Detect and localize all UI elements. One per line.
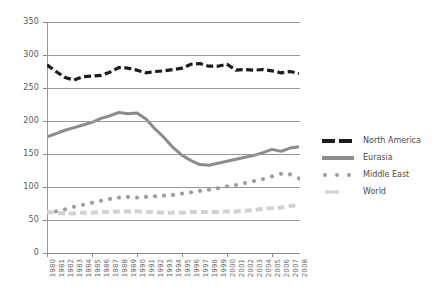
x-tick-label-2006: 2006 (284, 259, 291, 277)
y-tick-label: 50 (0, 216, 39, 224)
x-tick-label-1989: 1989 (131, 259, 138, 277)
x-tick-label-1997: 1997 (203, 259, 210, 277)
x-tick-label-1988: 1988 (122, 259, 129, 277)
gridline-300 (47, 55, 300, 56)
series-north-america (47, 64, 299, 81)
x-tick-label-2001: 2001 (239, 259, 246, 277)
legend-swatch-icon (322, 187, 354, 197)
y-tick-label: 150 (0, 150, 39, 158)
y-tick-label: 0 (0, 249, 39, 257)
legend-label: North America (363, 136, 421, 145)
line-chart: 050100150200250300350 198019811982198319… (0, 0, 435, 304)
x-tick-label-1994: 1994 (176, 259, 183, 277)
gridline-350 (47, 22, 300, 23)
legend-swatch-icon (322, 136, 354, 146)
x-tick-label-1986: 1986 (104, 259, 111, 277)
x-tick-label-1993: 1993 (167, 259, 174, 277)
gridline-0 (47, 253, 300, 254)
x-tick-mark (47, 253, 48, 257)
x-tick-label-2003: 2003 (257, 259, 264, 277)
legend-label: World (363, 187, 386, 196)
gridline-50 (47, 220, 300, 221)
legend-item-eurasia[interactable]: Eurasia (322, 149, 432, 166)
legend-label: Eurasia (363, 153, 393, 162)
x-tick-label-1998: 1998 (212, 259, 219, 277)
x-tick-label-1987: 1987 (113, 259, 120, 277)
x-tick-label-1981: 1981 (59, 259, 66, 277)
x-tick-mark (227, 253, 228, 257)
series-layer (47, 22, 300, 253)
x-tick-mark (137, 253, 138, 257)
x-tick-label-1999: 1999 (221, 259, 228, 277)
x-tick-label-2004: 2004 (266, 259, 273, 277)
legend-item-north-america[interactable]: North America (322, 132, 432, 149)
x-tick-label-1992: 1992 (158, 259, 165, 277)
x-tick-mark (272, 253, 273, 257)
gridline-250 (47, 88, 300, 89)
x-tick-label-1983: 1983 (77, 259, 84, 277)
x-tick-label-1995: 1995 (185, 259, 192, 277)
x-tick-label-1984: 1984 (86, 259, 93, 277)
x-tick-label-2005: 2005 (275, 259, 282, 277)
x-tick-label-1980: 1980 (50, 259, 57, 277)
gridline-150 (47, 154, 300, 155)
x-tick-label-1990: 1990 (140, 259, 147, 277)
legend-label: Middle East (363, 170, 409, 179)
x-tick-mark (182, 253, 183, 257)
legend-swatch-icon (322, 170, 354, 180)
x-tick-label-1985: 1985 (95, 259, 102, 277)
gridline-100 (47, 187, 300, 188)
x-tick-mark (92, 253, 93, 257)
x-tick-label-2002: 2002 (248, 259, 255, 277)
x-tick-label-1996: 1996 (194, 259, 201, 277)
y-tick-label: 250 (0, 84, 39, 92)
y-tick-label: 100 (0, 183, 39, 191)
plot-area (47, 22, 300, 253)
x-tick-label-1991: 1991 (149, 259, 156, 277)
legend-swatch-icon (322, 153, 354, 163)
series-world (47, 205, 299, 214)
legend: North AmericaEurasiaMiddle EastWorld (322, 132, 432, 200)
legend-item-middle-east[interactable]: Middle East (322, 166, 432, 183)
y-tick-label: 350 (0, 18, 39, 26)
x-tick-label-1982: 1982 (68, 259, 75, 277)
legend-item-world[interactable]: World (322, 183, 432, 200)
x-tick-label-2000: 2000 (230, 259, 237, 277)
gridline-200 (47, 121, 300, 122)
y-tick-label: 300 (0, 51, 39, 59)
x-tick-label-2007: 2007 (293, 259, 300, 277)
x-tick-label-2008: 2008 (302, 259, 309, 277)
y-tick-label: 200 (0, 117, 39, 125)
